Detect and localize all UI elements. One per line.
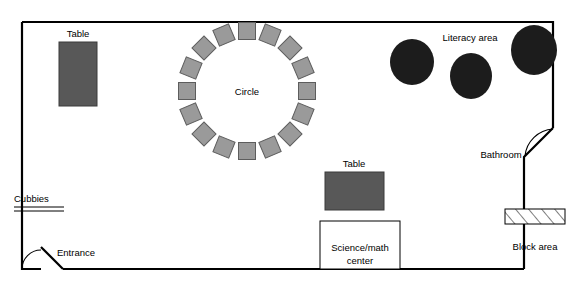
table-center-label: Table [343, 158, 366, 169]
circle-chair [278, 122, 302, 146]
circle-chair [278, 36, 302, 60]
chair-square [180, 57, 202, 79]
classroom-floor-plan: Table Circle Literacy a [0, 0, 575, 289]
literacy-area-label: Literacy area [443, 32, 499, 43]
table-left-group: Table [59, 28, 97, 106]
table-center-group: Table [325, 158, 384, 210]
chair-square [213, 24, 235, 46]
science-math-center-label-line1: Science/math [331, 242, 389, 253]
circle-chair [239, 23, 256, 40]
circle-chair [213, 24, 235, 46]
circle-chair [239, 143, 256, 160]
entrance-door-arc [22, 250, 41, 269]
chair-square [239, 143, 256, 160]
table-left [59, 42, 97, 106]
circle-chair [292, 57, 314, 79]
circle-chair [180, 103, 202, 125]
wall-left-lower [22, 22, 41, 269]
literacy-area-group: Literacy area [390, 25, 557, 99]
block-area-group: Block area [505, 209, 565, 252]
chair-square [259, 136, 281, 158]
entrance-label: Entrance [57, 247, 95, 258]
table-left-label: Table [67, 28, 90, 39]
chair-square [192, 122, 216, 146]
circle-chair [213, 136, 235, 158]
chair-square [179, 83, 196, 100]
chair-square [299, 83, 316, 100]
chair-square [292, 103, 314, 125]
circle-chair [259, 24, 281, 46]
chair-square [180, 103, 202, 125]
chair-square [192, 36, 216, 60]
chair-square [239, 23, 256, 40]
science-math-center-group: Science/math center [320, 221, 400, 269]
table-center [325, 172, 384, 210]
science-math-center-label-line2: center [347, 255, 373, 266]
literacy-blob-right [511, 25, 557, 75]
cubbies-label: Cubbies [14, 193, 49, 204]
circle-chair [299, 83, 316, 100]
circle-chair [292, 103, 314, 125]
literacy-blob-middle [450, 53, 492, 99]
chair-square [278, 36, 302, 60]
bathroom-label: Bathroom [480, 149, 521, 160]
literacy-blob-left [390, 39, 434, 85]
floor-plan-canvas: Table Circle Literacy a [0, 0, 575, 289]
block-area-label: Block area [513, 241, 559, 252]
circle-chair [192, 36, 216, 60]
block-area-shelf [505, 209, 565, 224]
chair-square [259, 24, 281, 46]
circle-chair [259, 136, 281, 158]
chair-square [213, 136, 235, 158]
chair-square [292, 57, 314, 79]
chair-square [278, 122, 302, 146]
circle-area-label: Circle [235, 86, 259, 97]
circle-chair [179, 83, 196, 100]
circle-chair [180, 57, 202, 79]
circle-chair [192, 122, 216, 146]
circle-meeting-area: Circle [179, 23, 316, 160]
